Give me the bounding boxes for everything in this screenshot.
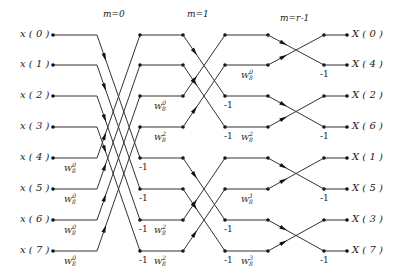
minus-one-label: -1 <box>224 131 233 141</box>
stage-label: m=r-1 <box>280 13 309 23</box>
twiddle-label: W08 <box>154 99 166 112</box>
minus-one-label: -1 <box>320 131 329 141</box>
minus-one-label: -1 <box>320 69 329 79</box>
input-label: x ( 5 ) <box>20 182 49 193</box>
twiddle-label: W08 <box>241 68 253 81</box>
twiddle-label: W08 <box>64 254 76 267</box>
output-label: X ( 0 ) <box>352 28 383 39</box>
input-label: x ( 6 ) <box>20 213 49 224</box>
minus-one-label: -1 <box>320 193 329 203</box>
twiddle-label: W08 <box>64 223 76 236</box>
minus-one-label: -1 <box>320 255 329 265</box>
stage-label: m=0 <box>103 9 125 19</box>
butterfly-graph <box>0 0 396 279</box>
minus-one-label: -1 <box>224 255 233 265</box>
minus-one-label: -1 <box>224 224 233 234</box>
input-label: x ( 7 ) <box>20 244 49 255</box>
twiddle-label: W18 <box>241 192 253 205</box>
output-label: X ( 5 ) <box>352 182 383 193</box>
output-label: X ( 7 ) <box>352 244 383 255</box>
minus-one-label: -1 <box>139 162 148 172</box>
output-label: X ( 1 ) <box>352 151 383 162</box>
twiddle-label: W28 <box>154 130 166 143</box>
output-label: X ( 3 ) <box>352 213 383 224</box>
input-label: x ( 2 ) <box>20 89 49 100</box>
twiddle-label: W28 <box>154 254 166 267</box>
minus-one-label: -1 <box>139 224 148 234</box>
twiddle-label: W08 <box>64 192 76 205</box>
input-label: x ( 0 ) <box>20 28 49 39</box>
twiddle-label: W28 <box>241 130 253 143</box>
input-label: x ( 1 ) <box>20 58 49 69</box>
twiddle-label: W38 <box>241 254 253 267</box>
twiddle-label: W28 <box>154 223 166 236</box>
twiddle-label: W08 <box>64 161 76 174</box>
output-label: X ( 4 ) <box>352 58 383 69</box>
output-label: X ( 2 ) <box>352 89 383 100</box>
input-label: x ( 3 ) <box>20 120 49 131</box>
stage-label: m=1 <box>187 9 209 19</box>
minus-one-label: -1 <box>139 193 148 203</box>
input-label: x ( 4 ) <box>20 151 49 162</box>
minus-one-label: -1 <box>139 255 148 265</box>
output-label: X ( 6 ) <box>352 120 383 131</box>
fft-diagram: x ( 0 )x ( 1 )x ( 2 )x ( 3 )x ( 4 )x ( 5… <box>0 0 396 279</box>
minus-one-label: -1 <box>224 100 233 110</box>
